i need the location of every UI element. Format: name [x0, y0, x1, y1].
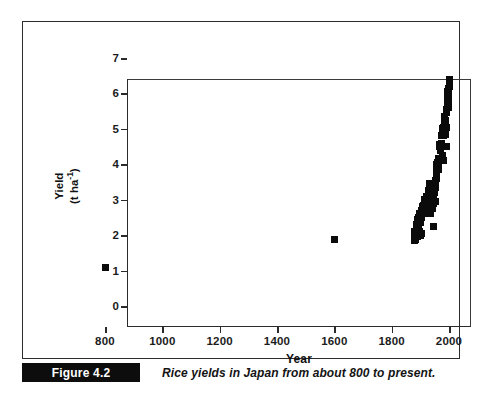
data-point	[442, 131, 449, 138]
data-point	[432, 198, 439, 205]
data-point	[432, 184, 439, 191]
figure-number-badge: Figure 4.2	[22, 363, 140, 382]
x-tick-label-1200: 1200	[206, 335, 232, 347]
x-tick-1200	[220, 327, 222, 333]
y-tick-label-7: 7	[107, 52, 119, 64]
y-tick-7	[121, 58, 127, 60]
x-tick-1800	[392, 327, 394, 333]
x-tick-2000	[449, 327, 451, 333]
data-point	[331, 236, 338, 243]
data-point	[430, 223, 437, 230]
data-point	[440, 157, 447, 164]
y-axis-title-line1: Yield	[53, 126, 66, 246]
data-point	[442, 117, 449, 124]
x-tick-800	[105, 327, 107, 333]
data-point	[446, 83, 453, 90]
data-point	[102, 264, 109, 271]
data-point	[446, 76, 453, 83]
y-axis-title: Yield (t ha-1)	[53, 126, 81, 246]
y-tick-4	[121, 164, 127, 166]
data-point	[443, 143, 450, 150]
x-tick-1000	[162, 327, 164, 333]
x-tick-label-2000: 2000	[436, 335, 462, 347]
y-axis-unit-prefix: (t ha	[68, 180, 80, 204]
y-tick-label-2: 2	[107, 229, 119, 241]
y-axis-unit-suffix: )	[68, 168, 80, 172]
y-tick-label-6: 6	[107, 87, 119, 99]
y-axis-title-line2: (t ha-1)	[66, 126, 81, 246]
y-tick-1	[121, 271, 127, 273]
x-tick-label-1000: 1000	[149, 335, 175, 347]
data-point	[445, 97, 452, 104]
figure-caption-text: Rice yields in Japan from about 800 to p…	[162, 363, 435, 382]
y-tick-label-1: 1	[107, 265, 119, 277]
y-tick-label-5: 5	[107, 123, 119, 135]
y-tick-2	[121, 235, 127, 237]
x-tick-1600	[334, 327, 336, 333]
y-tick-label-4: 4	[107, 158, 119, 170]
y-tick-0	[121, 306, 127, 308]
x-tick-label-1600: 1600	[321, 335, 347, 347]
y-tick-label-3: 3	[107, 194, 119, 206]
y-tick-5	[121, 129, 127, 131]
data-point	[435, 166, 442, 173]
x-tick-1400	[277, 327, 279, 333]
y-tick-label-0: 0	[107, 300, 119, 312]
x-tick-label-800: 800	[95, 335, 115, 347]
data-point	[418, 230, 425, 237]
x-tick-label-1800: 1800	[378, 335, 404, 347]
figure-outer-frame: 80010001200140016001800200001234567 Year…	[22, 21, 460, 359]
y-tick-6	[121, 93, 127, 95]
y-axis-unit-exponent: -1	[65, 172, 75, 180]
y-tick-3	[121, 200, 127, 202]
data-point	[443, 124, 450, 131]
data-point	[445, 104, 452, 111]
figure-caption-row: Figure 4.2 Rice yields in Japan from abo…	[22, 363, 460, 384]
x-tick-label-1400: 1400	[264, 335, 290, 347]
